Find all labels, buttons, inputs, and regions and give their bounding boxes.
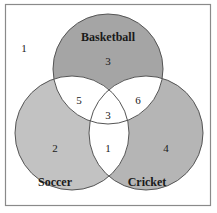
basketball-label: Basketball (81, 30, 136, 44)
basketball-soccer-count: 5 (76, 94, 82, 106)
soccer-label: Soccer (38, 175, 73, 189)
cricket-only-count: 4 (163, 142, 169, 154)
soccer-only-count: 2 (52, 142, 58, 154)
cricket-label: Cricket (128, 175, 167, 189)
venn-diagram: Basketball Soccer Cricket 1 3 5 6 3 2 1 … (0, 0, 217, 213)
all-three-count: 3 (105, 109, 111, 121)
outside-count: 1 (21, 42, 27, 54)
basketball-only-count: 3 (105, 55, 111, 67)
soccer-cricket-count: 1 (105, 142, 111, 154)
basketball-cricket-count: 6 (135, 94, 141, 106)
